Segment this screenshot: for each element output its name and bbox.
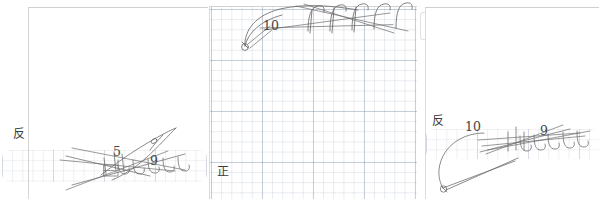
right-annotation-9: 9 (540, 125, 548, 138)
middle-annotation-10: 10 (263, 20, 279, 33)
left-annotation-5: 5 (113, 146, 121, 159)
right-annotation-10: 10 (465, 121, 481, 134)
left-annotation-9: 9 (150, 155, 158, 168)
middle-grid-sheet (209, 6, 417, 199)
left-side-label: 反 (13, 128, 25, 140)
panel-left: 反 5 9 (0, 0, 208, 199)
left-grid-strip (2, 150, 207, 182)
panel-middle: 正 10 (208, 0, 420, 199)
right-side-label: 反 (432, 115, 444, 127)
right-sheet (425, 7, 599, 199)
middle-side-label: 正 (217, 166, 229, 178)
right-grid-strip (426, 129, 599, 159)
panel-right: 反 10 9 (420, 0, 599, 199)
